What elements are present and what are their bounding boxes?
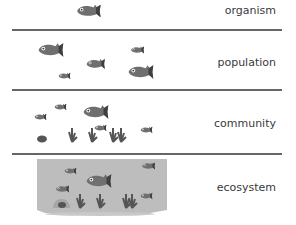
divider: [12, 153, 282, 155]
divider: [12, 29, 282, 31]
level-label-community: community: [214, 117, 276, 130]
level-label-organism: organism: [225, 4, 276, 17]
organism-fish: [77, 5, 100, 18]
community-scene: [35, 104, 153, 143]
population-fish-group: [39, 43, 154, 79]
divider: [12, 89, 282, 91]
ecosystem-tank: [37, 159, 167, 216]
level-label-population: population: [217, 56, 276, 69]
level-label-ecosystem: ecosystem: [217, 181, 276, 194]
